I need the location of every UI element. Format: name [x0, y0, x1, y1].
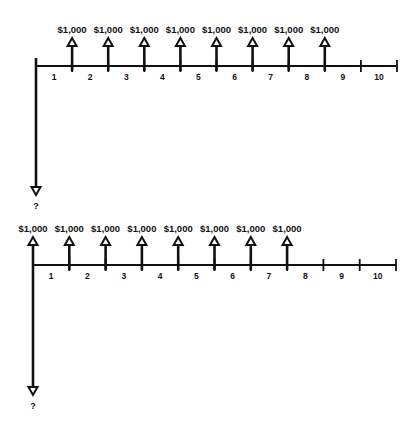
inflow-amount-label: $1,000 [130, 24, 159, 35]
inflow-amount-label: $1,000 [273, 223, 302, 234]
inflow-amount-label: $1,000 [236, 223, 265, 234]
period-label: 8 [304, 72, 309, 82]
period-label: 9 [339, 271, 344, 281]
period-label: 6 [232, 72, 237, 82]
period-label: 7 [268, 72, 273, 82]
arrow-up-icon [140, 38, 149, 46]
arrow-down-icon [32, 187, 41, 195]
arrow-up-icon [68, 38, 77, 46]
inflow-amount-label: $1,000 [127, 223, 156, 234]
arrow-down-icon [29, 387, 38, 395]
arrow-up-icon [137, 237, 146, 245]
inflow-amount-label: $1,000 [166, 24, 195, 35]
inflow-amount-label: $1,000 [18, 223, 47, 234]
inflow-amount-label: $1,000 [310, 24, 339, 35]
unknown-value-label: ? [30, 401, 36, 411]
arrow-up-icon [283, 237, 292, 245]
cash-flow-diagram-top: 12345678910?$1,000$1,000$1,000$1,000$1,0… [32, 24, 398, 211]
period-label: 7 [267, 271, 272, 281]
cash-flow-diagram-bottom: 12345678910?$1,000$1,000$1,000$1,000$1,0… [18, 223, 396, 411]
arrow-up-icon [176, 38, 185, 46]
inflow-amount-label: $1,000 [58, 24, 87, 35]
period-label: 4 [160, 72, 165, 82]
period-label: 2 [85, 271, 90, 281]
inflow-amount-label: $1,000 [238, 24, 267, 35]
arrow-up-icon [65, 237, 74, 245]
arrow-up-icon [212, 38, 221, 46]
inflow-amount-label: $1,000 [55, 223, 84, 234]
inflow-amount-label: $1,000 [91, 223, 120, 234]
arrow-up-icon [210, 237, 219, 245]
period-label: 1 [49, 271, 54, 281]
inflow-amount-label: $1,000 [202, 24, 231, 35]
arrow-up-icon [29, 237, 38, 245]
arrow-up-icon [284, 38, 293, 46]
arrow-up-icon [320, 38, 329, 46]
period-label: 8 [303, 271, 308, 281]
period-label: 10 [374, 72, 384, 82]
period-label: 9 [340, 72, 345, 82]
inflow-amount-label: $1,000 [94, 24, 123, 35]
period-label: 3 [121, 271, 126, 281]
inflow-amount-label: $1,000 [164, 223, 193, 234]
period-label: 6 [230, 271, 235, 281]
arrow-up-icon [246, 237, 255, 245]
period-label: 10 [373, 271, 383, 281]
unknown-value-label: ? [33, 201, 39, 211]
period-label: 1 [52, 72, 57, 82]
arrow-up-icon [248, 38, 257, 46]
cash-flow-diagrams: 12345678910?$1,000$1,000$1,000$1,000$1,0… [0, 0, 420, 436]
period-label: 5 [194, 271, 199, 281]
period-label: 3 [124, 72, 129, 82]
arrow-up-icon [104, 38, 113, 46]
arrow-up-icon [174, 237, 183, 245]
inflow-amount-label: $1,000 [274, 24, 303, 35]
period-label: 2 [88, 72, 93, 82]
period-label: 5 [196, 72, 201, 82]
arrow-up-icon [101, 237, 110, 245]
inflow-amount-label: $1,000 [200, 223, 229, 234]
period-label: 4 [158, 271, 163, 281]
